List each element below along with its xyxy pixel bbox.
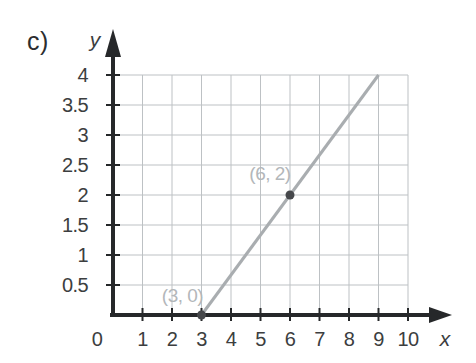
y-tick-label: 4 [77, 64, 88, 86]
origin-label: 0 [92, 328, 103, 350]
x-tick-label: 9 [373, 328, 384, 350]
y-tick-label: 1.5 [62, 214, 88, 236]
line-chart: 123456789100.511.522.533.540xy(3, 0)(6, … [0, 0, 476, 363]
x-tick-label: 5 [255, 328, 266, 350]
y-tick-label: 0.5 [62, 274, 88, 296]
data-point [286, 191, 295, 200]
x-tick-label: 2 [167, 328, 178, 350]
figure-c: c) 123456789100.511.522.533.540xy(3, 0)(… [0, 0, 476, 363]
y-tick-label: 2.5 [62, 154, 88, 176]
y-tick-label: 2 [77, 184, 88, 206]
x-tick-label: 7 [314, 328, 325, 350]
x-axis-arrowhead [429, 307, 452, 323]
y-tick-label: 1 [77, 244, 88, 266]
x-tick-label: 10 [397, 328, 419, 350]
x-tick-label: 8 [344, 328, 355, 350]
data-point [197, 311, 206, 320]
point-label: (3, 0) [162, 285, 204, 306]
y-axis-arrowhead [105, 29, 121, 57]
y-axis-label: y [88, 28, 102, 51]
x-tick-label: 3 [196, 328, 207, 350]
x-axis-label: x [439, 327, 452, 350]
x-tick-label: 6 [285, 328, 296, 350]
y-tick-label: 3 [77, 124, 88, 146]
x-tick-label: 4 [226, 328, 237, 350]
y-tick-label: 3.5 [62, 94, 88, 116]
point-label: (6, 2) [249, 163, 291, 184]
x-tick-label: 1 [137, 328, 148, 350]
